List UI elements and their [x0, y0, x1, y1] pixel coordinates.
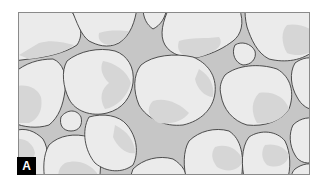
panel-label: A: [17, 157, 36, 175]
grain: [184, 129, 243, 175]
grain: [233, 43, 255, 65]
grain: [162, 13, 242, 58]
grain: [220, 66, 291, 126]
grain: [71, 13, 137, 46]
grain-drawing: [19, 13, 310, 175]
grain: [19, 13, 81, 61]
grain: [290, 118, 310, 163]
grain: [60, 111, 81, 131]
grain: [19, 59, 66, 127]
grain: [242, 132, 289, 175]
grain: [135, 55, 216, 125]
grain: [129, 157, 187, 175]
grain-illustration-panel: [18, 12, 310, 175]
grain: [63, 49, 133, 114]
grain: [291, 58, 310, 110]
grain: [292, 164, 310, 175]
